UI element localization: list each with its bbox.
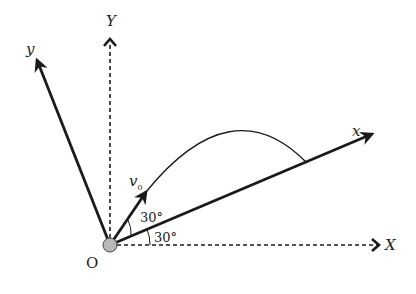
diagram-canvas [0, 0, 416, 294]
y-axis [37, 60, 110, 245]
y-axis-label: y [26, 42, 34, 57]
x-axis-label: x [352, 124, 360, 139]
trajectory-curve [146, 131, 307, 192]
origin-point [103, 238, 117, 252]
velocity-label: v0 [129, 174, 143, 192]
origin-label: O [86, 256, 98, 271]
x-axis [110, 134, 372, 245]
angle-arc-incline [147, 229, 150, 245]
Y-axis-label: Y [106, 14, 116, 29]
angle-arc-launch [128, 220, 131, 236]
X-axis-label: X [385, 238, 396, 253]
Y-axis [104, 39, 116, 245]
incline-angle-label: 30° [154, 231, 177, 244]
launch-angle-label: 30° [140, 211, 163, 224]
